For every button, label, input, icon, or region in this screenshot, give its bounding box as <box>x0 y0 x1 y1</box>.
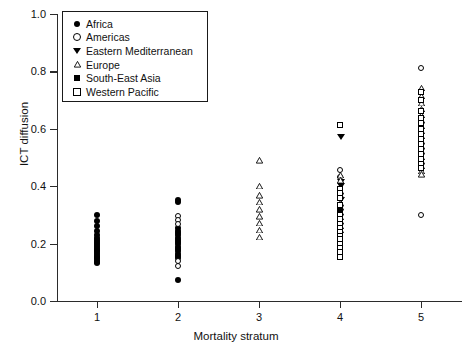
data-point <box>256 227 263 234</box>
data-point <box>175 217 181 223</box>
data-point <box>418 120 424 126</box>
filled-circle-icon <box>70 21 84 27</box>
data-point <box>418 126 424 132</box>
x-tick-label: 1 <box>82 312 112 323</box>
data-point <box>175 230 181 236</box>
data-point <box>94 257 100 263</box>
scatter-plot-figure: ICT diffusion Mortality stratum 1.0 0.8 … <box>0 0 472 353</box>
data-point <box>175 258 181 264</box>
y-tick-mark <box>50 129 57 130</box>
data-point <box>175 255 181 261</box>
y-tick-label: 0.6 <box>12 124 46 135</box>
data-point <box>418 115 424 121</box>
data-point <box>337 218 344 225</box>
data-point <box>175 241 181 247</box>
x-tick-mark <box>259 301 260 308</box>
data-point <box>256 213 263 220</box>
data-point <box>418 165 424 171</box>
data-point <box>418 133 425 140</box>
data-point <box>256 220 263 227</box>
data-point <box>94 260 100 266</box>
data-point <box>418 156 424 162</box>
data-point <box>175 221 181 227</box>
data-point <box>337 225 343 231</box>
data-point <box>94 254 100 260</box>
y-tick-label: 1.0 <box>12 9 46 20</box>
data-point <box>418 100 425 107</box>
legend-item-europe: Europe <box>70 58 207 72</box>
data-point <box>418 112 425 119</box>
data-point <box>256 183 263 190</box>
data-point <box>94 252 100 258</box>
data-point <box>337 221 343 227</box>
data-point <box>94 228 100 234</box>
data-point <box>418 171 425 178</box>
data-point <box>337 193 343 199</box>
y-tick-mark <box>50 186 57 187</box>
legend-item-label: South-East Asia <box>84 72 161 84</box>
y-tick-mark <box>50 301 57 302</box>
legend-item-label: Americas <box>84 31 130 43</box>
data-point <box>175 225 181 231</box>
y-tick-mark <box>50 244 57 245</box>
data-point <box>175 232 181 238</box>
data-point <box>337 233 343 239</box>
x-tick-mark <box>340 301 341 308</box>
data-point <box>94 235 100 241</box>
data-point <box>94 218 100 224</box>
data-point <box>337 200 344 207</box>
data-point <box>418 158 425 165</box>
data-point <box>418 154 425 161</box>
data-point <box>94 237 100 243</box>
y-tick-label: 0.0 <box>12 296 46 307</box>
data-point <box>418 141 424 147</box>
data-point <box>256 234 263 241</box>
x-tick-label: 2 <box>163 312 193 323</box>
data-point <box>418 93 425 100</box>
data-point <box>337 209 344 216</box>
data-point <box>175 277 181 283</box>
legend-item-eastern-mediterranean: Eastern Mediterranean <box>70 44 207 58</box>
x-tick-mark <box>97 301 98 308</box>
data-point <box>337 231 343 237</box>
data-point <box>256 206 263 213</box>
data-point <box>175 246 181 252</box>
x-tick-label: 3 <box>244 312 274 323</box>
open-circle-icon <box>70 33 84 41</box>
data-point <box>418 136 424 142</box>
data-point <box>175 197 181 203</box>
data-point <box>418 148 425 155</box>
data-point <box>337 229 343 235</box>
data-point <box>418 131 424 137</box>
data-point <box>418 123 425 130</box>
data-point <box>175 237 181 243</box>
legend-item-label: Eastern Mediterranean <box>84 45 193 57</box>
data-point <box>175 244 181 250</box>
data-point <box>337 206 343 212</box>
data-point <box>418 108 424 114</box>
data-point <box>418 143 425 150</box>
data-point <box>175 263 181 269</box>
data-point <box>337 122 343 128</box>
y-tick-label: 0.4 <box>12 181 46 192</box>
y-axis-line <box>57 14 58 302</box>
y-tick-label: 0.2 <box>12 239 46 250</box>
data-point <box>256 199 263 206</box>
data-point <box>94 243 100 249</box>
open-triangle-up-icon <box>70 61 84 68</box>
data-point <box>94 255 100 261</box>
data-point <box>175 228 181 234</box>
data-point <box>94 248 100 254</box>
data-point <box>94 245 100 251</box>
data-point <box>94 212 100 218</box>
data-point <box>418 168 425 175</box>
data-point <box>337 223 344 230</box>
legend-item-label: Africa <box>84 18 113 30</box>
legend-item-south-east-asia: South-East Asia <box>70 71 207 85</box>
data-point <box>94 241 100 247</box>
x-tick-label: 5 <box>406 312 436 323</box>
data-point <box>175 199 181 205</box>
open-square-icon <box>70 88 84 96</box>
data-point <box>337 212 343 218</box>
data-point <box>337 214 344 221</box>
